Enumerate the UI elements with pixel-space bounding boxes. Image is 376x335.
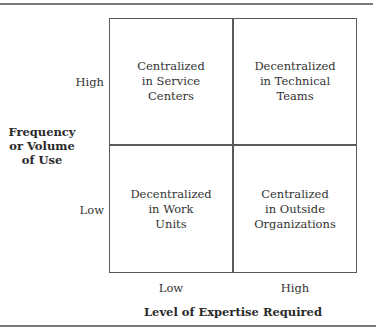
cell-low-frequency-low-expertise: Decentralized in Work Units [110, 146, 232, 272]
cell-text-line: Decentralized [254, 59, 335, 74]
cell-text-line: Units [130, 217, 211, 232]
cell-text-line: Teams [254, 89, 335, 104]
bottom-rule [0, 325, 376, 327]
cell-text-line: Centralized [137, 59, 205, 74]
y-axis-tick-low: Low [80, 203, 104, 217]
cell-low-frequency-high-expertise: Centralized in Outside Organizations [234, 146, 356, 272]
x-axis-title: Level of Expertise Required [109, 305, 357, 319]
cell-text-line: Decentralized [130, 187, 211, 202]
y-axis-title-line: of Use [6, 153, 78, 167]
cell-text-line: in Technical [254, 74, 335, 89]
cell-text-line: Centers [137, 89, 205, 104]
y-axis-title-line: or Volume [6, 139, 78, 153]
cell-text-line: in Service [137, 74, 205, 89]
y-axis-title: Frequency or Volume of Use [6, 125, 78, 167]
cell-high-frequency-high-expertise: Decentralized in Technical Teams [234, 19, 356, 144]
cell-text-line: Centralized [254, 187, 336, 202]
cell-text-line: in Work [130, 202, 211, 217]
x-axis-tick-high: High [265, 281, 325, 295]
y-axis-title-line: Frequency [6, 125, 78, 139]
y-axis-tick-high: High [76, 75, 104, 89]
top-rule [0, 3, 373, 5]
cell-high-frequency-low-expertise: Centralized in Service Centers [110, 19, 232, 144]
cell-text-line: in Outside [254, 202, 336, 217]
cell-text-line: Organizations [254, 217, 336, 232]
x-axis-tick-low: Low [141, 281, 201, 295]
